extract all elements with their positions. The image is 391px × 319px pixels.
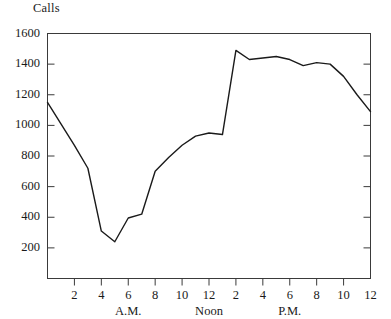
y-axis-ticks <box>48 64 371 248</box>
x-tick-label: 4 <box>250 288 276 303</box>
y-tick-label: 1400 <box>0 56 40 71</box>
x-tick-label: 4 <box>88 288 114 303</box>
axes-frame <box>48 34 371 279</box>
period-label: P.M. <box>265 304 315 319</box>
y-tick-label: 1600 <box>0 26 40 41</box>
x-tick-label: 10 <box>331 288 357 303</box>
data-series-group <box>48 50 371 241</box>
x-tick-label: 10 <box>169 288 195 303</box>
y-tick-label: 1000 <box>0 117 40 132</box>
x-tick-label: 6 <box>115 288 141 303</box>
x-tick-label: 6 <box>277 288 303 303</box>
y-tick-label: 1200 <box>0 87 40 102</box>
x-tick-label: 2 <box>61 288 87 303</box>
x-tick-label: 12 <box>196 288 222 303</box>
y-tick-label: 200 <box>0 240 40 255</box>
x-tick-label: 8 <box>304 288 330 303</box>
x-axis-ticks <box>74 279 343 286</box>
x-tick-label: 8 <box>142 288 168 303</box>
x-tick-label: 12 <box>358 288 384 303</box>
period-label: A.M. <box>103 304 153 319</box>
y-tick-label: 800 <box>0 148 40 163</box>
x-tick-label: 2 <box>223 288 249 303</box>
y-tick-label: 600 <box>0 179 40 194</box>
y-tick-label: 400 <box>0 209 40 224</box>
period-label: Noon <box>184 304 234 319</box>
